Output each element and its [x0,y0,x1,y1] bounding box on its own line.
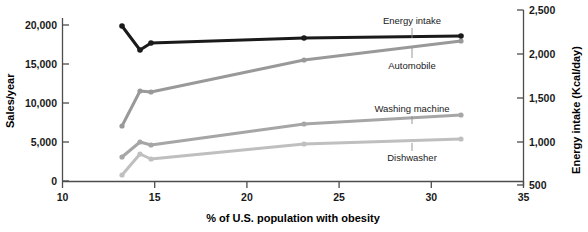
right-tick-label-1500: 1,500 [529,92,555,104]
annotation-energy-intake-label: Energy intake [383,15,441,26]
left-tick-label-0: 0 [51,175,57,187]
left-tick-label-5000: 5,000 [31,136,57,148]
left-tick-label-10000: 10,000 [25,97,57,109]
energy-intake-point [301,35,307,41]
right-tick-label-500: 500 [529,179,547,191]
x-tick-label-10: 10 [57,191,69,203]
annotation-washing-machine-label: Washing machine [374,103,449,114]
right-tick-label-2500: 2,500 [529,4,555,16]
x-tick-label-25: 25 [333,191,345,203]
energy-intake-point [148,40,154,46]
x-tick-label-35: 35 [518,191,530,203]
automobile-point [301,57,306,62]
washing-machine-point [301,121,306,126]
dishwasher-point [301,141,306,146]
left-axis: 20,000 15,000 10,000 5,000 0 Sales/year [4,18,69,187]
right-tick-label-1000: 1,000 [529,136,555,148]
washing-machine-point [119,154,124,159]
bottom-axis: 10 15 20 25 30 35 % of U.S. population w… [57,182,530,225]
dishwasher-point [137,151,142,156]
x-tick-label-15: 15 [149,191,161,203]
annotation-energy-intake: Energy intake [383,15,441,38]
annotation-washing-machine: Washing machine [374,103,449,124]
left-tick-label-15000: 15,000 [25,58,57,70]
left-tick-label-20000: 20,000 [25,19,57,31]
right-axis-title: Energy intake (Kcal/day) [570,46,582,174]
right-axis: 2,500 2,000 1,500 1,000 500 Energy intak… [517,4,582,191]
x-tick-label-20: 20 [241,191,253,203]
energy-intake-point [137,47,143,53]
energy-intake-point [119,23,125,29]
dishwasher-point [119,172,124,177]
annotation-automobile-label: Automobile [388,60,436,71]
chart-container: 20,000 15,000 10,000 5,000 0 Sales/year … [0,0,588,232]
line-chart: 20,000 15,000 10,000 5,000 0 Sales/year … [0,0,588,232]
energy-intake-point [458,33,464,39]
automobile-point [137,88,142,93]
left-axis-title: Sales/year [4,73,16,128]
right-tick-label-2000: 2,000 [529,48,555,60]
washing-machine-line [122,115,461,157]
annotation-automobile: Automobile [388,48,436,71]
annotation-dishwasher-label: Dishwasher [387,152,437,163]
dishwasher-point [148,156,153,161]
automobile-point [148,89,153,94]
automobile-point [458,38,463,43]
washing-machine-point [137,139,142,144]
washing-machine-point [458,112,463,117]
annotation-dishwasher: Dishwasher [387,143,437,163]
dishwasher-point [458,136,463,141]
automobile-point [119,123,124,128]
washing-machine-point [148,142,153,147]
bottom-axis-title: % of U.S. population with obesity [206,212,380,224]
x-tick-label-30: 30 [425,191,437,203]
